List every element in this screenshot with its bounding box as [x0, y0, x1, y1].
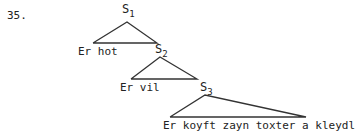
node-subscript: 2	[162, 49, 167, 59]
node-subscript: 1	[129, 9, 134, 19]
node-s2-label: S2	[155, 43, 168, 60]
node-s3-label: S3	[200, 81, 213, 98]
leaf-text-s1: Er hot	[78, 46, 118, 57]
node-subscript: 3	[207, 87, 212, 97]
s1-triangle	[93, 22, 157, 43]
leaf-text-s3: Er koyft zayn toxter a kleydl	[163, 120, 355, 131]
s3-triangle	[170, 95, 306, 117]
node-s1-label: S1	[122, 3, 135, 20]
leaf-text-s2: Er vil	[120, 82, 160, 93]
s2-triangle	[131, 57, 197, 79]
